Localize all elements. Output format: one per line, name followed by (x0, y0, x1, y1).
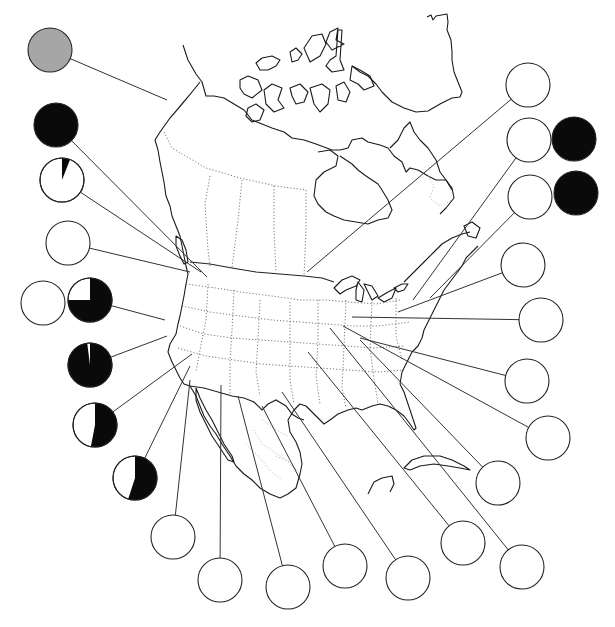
pie-chart (526, 416, 570, 460)
pie-background (507, 118, 551, 162)
canada-province-borders (164, 132, 306, 276)
leader-line (220, 385, 221, 558)
pie-chart (552, 117, 596, 161)
canada-north-coast (183, 45, 452, 190)
pie-background (21, 281, 65, 325)
pie-chart (441, 521, 485, 565)
baja-california (196, 388, 234, 462)
pie-background (34, 103, 78, 147)
pie-chart (28, 28, 72, 72)
pie-background (46, 221, 90, 265)
pie-chart (519, 298, 563, 342)
pie-background (505, 359, 549, 403)
leader-line (398, 273, 502, 312)
map-figure (0, 0, 615, 627)
arctic-islands (240, 28, 374, 122)
leader-line (113, 354, 192, 412)
cuba (404, 456, 470, 470)
hudson-bay-coast (314, 150, 392, 224)
pie-chart (507, 118, 551, 162)
leader-line (89, 248, 190, 272)
pie-chart (266, 565, 310, 609)
leader-line (430, 213, 515, 298)
pie-background (526, 416, 570, 460)
us-mexico-border (190, 386, 304, 420)
yucatan (368, 476, 394, 494)
us-state-borders (178, 284, 410, 408)
pie-chart (508, 175, 552, 219)
pie-chart (501, 243, 545, 287)
pie-chart (505, 359, 549, 403)
great-lakes (334, 276, 408, 302)
leader-line (111, 336, 167, 357)
pie-chart (68, 343, 112, 387)
pacific-northwest-coast (155, 140, 188, 274)
pie-background (508, 175, 552, 219)
pie-background (501, 243, 545, 287)
pie-chart (506, 63, 550, 107)
pie-background (198, 558, 242, 602)
pie-background (441, 521, 485, 565)
us-canada-border (190, 262, 334, 282)
pie-chart (34, 103, 78, 147)
pie-chart (113, 456, 157, 500)
mexico-state-borders (246, 420, 300, 480)
leader-line (413, 158, 516, 300)
north-america-map (0, 0, 615, 627)
pie-chart (476, 461, 520, 505)
pie-chart (40, 158, 84, 202)
pie-chart (198, 558, 242, 602)
pie-background (266, 565, 310, 609)
pie-chart (151, 515, 195, 559)
pie-chart (73, 403, 117, 447)
alaska-canada-border (155, 82, 200, 140)
pie-background (28, 28, 72, 72)
newfoundland (464, 222, 480, 238)
pie-background (323, 544, 367, 588)
leader-line (352, 317, 519, 320)
pie-chart (46, 221, 90, 265)
pie-chart (68, 278, 112, 322)
pie-chart (386, 556, 430, 600)
leader-line (360, 338, 506, 376)
leader-line (330, 328, 508, 550)
leader-line (72, 141, 207, 277)
pie-background (552, 117, 596, 161)
st-lawrence (404, 232, 470, 282)
pie-background (519, 298, 563, 342)
leader-line (70, 59, 167, 100)
leader-line (238, 396, 282, 566)
leader-line (175, 380, 190, 515)
basemap (155, 14, 480, 498)
pie-background (500, 545, 544, 589)
leader-line (111, 306, 165, 320)
pie-chart (500, 545, 544, 589)
leader-line (308, 352, 449, 526)
pie-background (151, 515, 195, 559)
pie-charts (21, 28, 598, 609)
leader-line (307, 99, 511, 272)
pie-background (386, 556, 430, 600)
mexico-pacific-coast (190, 386, 280, 498)
pie-background (554, 171, 598, 215)
pie-chart (21, 281, 65, 325)
greenland-coast (352, 14, 462, 112)
pie-background (506, 63, 550, 107)
leader-line (360, 340, 483, 467)
labrador-coast (390, 122, 454, 214)
leader-line (262, 406, 335, 546)
pie-chart (554, 171, 598, 215)
pie-chart (323, 544, 367, 588)
pie-background (476, 461, 520, 505)
